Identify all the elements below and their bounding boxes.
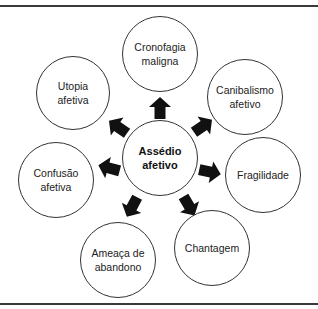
node-confusao: Confusão afetiva — [18, 142, 94, 218]
arrow-to-confusao-icon — [96, 155, 123, 182]
node-canibalismo-label: Canibalismo afetivo — [216, 83, 274, 111]
node-chantagem-label: Chantagem — [185, 241, 239, 255]
node-cronofagia: Cronofagia maligna — [122, 16, 198, 92]
bottom-rule — [0, 303, 318, 305]
node-ameaca-label: Ameaça de abandono — [91, 246, 144, 274]
node-cronofagia-label: Cronofagia maligna — [134, 40, 185, 68]
node-utopia: Utopia afetiva — [36, 56, 110, 130]
center-node-assedio-afetivo: Assédio afetivo — [122, 120, 198, 196]
arrow-to-fragilidade-icon — [197, 159, 223, 185]
node-chantagem: Chantagem — [174, 210, 250, 286]
arrow-to-ameaca-icon — [117, 192, 147, 222]
node-utopia-label: Utopia afetiva — [58, 79, 89, 107]
node-fragilidade: Fragilidade — [225, 137, 301, 213]
arrow-to-cronofagia-icon — [149, 97, 171, 119]
center-node-assedio-afetivo-label: Assédio afetivo — [139, 144, 182, 172]
node-fragilidade-label: Fragilidade — [237, 168, 289, 182]
node-ameaca: Ameaça de abandono — [80, 222, 156, 298]
node-confusao-label: Confusão afetiva — [34, 166, 79, 194]
node-canibalismo: Canibalismo afetivo — [207, 59, 283, 135]
